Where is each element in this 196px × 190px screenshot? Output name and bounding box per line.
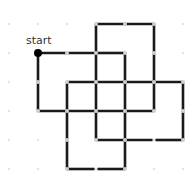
grid-dot <box>8 23 10 25</box>
grid-dot <box>8 52 10 54</box>
path-node <box>152 51 156 55</box>
grid-dot <box>8 168 10 170</box>
path-node <box>152 109 156 113</box>
grid-dot <box>37 139 39 141</box>
start-label: start <box>26 34 52 47</box>
path-node <box>152 80 156 84</box>
path-node <box>94 51 98 55</box>
path-node <box>94 138 98 142</box>
maze-path-diagram: start <box>0 0 196 190</box>
grid-dot <box>182 23 184 25</box>
path-node <box>123 51 127 55</box>
grid-dot <box>66 23 68 25</box>
path-node <box>94 80 98 84</box>
path-nodes <box>36 22 185 171</box>
grid-dot <box>8 110 10 112</box>
grid-dot <box>8 81 10 83</box>
path-svg: start <box>0 0 196 190</box>
grid-dot <box>8 139 10 141</box>
path-node <box>65 138 69 142</box>
path-node <box>123 138 127 142</box>
path-node <box>36 109 40 113</box>
path-node <box>181 138 185 142</box>
path-node <box>123 109 127 113</box>
path-node <box>181 80 185 84</box>
path-node <box>94 22 98 26</box>
path-node <box>36 80 40 84</box>
path-node <box>123 80 127 84</box>
grid-dot <box>95 168 97 170</box>
path-node <box>94 109 98 113</box>
grid-dot <box>153 168 155 170</box>
path-node <box>65 167 69 171</box>
path-node <box>65 80 69 84</box>
path-segments <box>38 24 183 169</box>
path-node <box>65 51 69 55</box>
path-node <box>65 109 69 113</box>
path-node <box>123 167 127 171</box>
path-node <box>181 109 185 113</box>
start-point <box>34 49 42 57</box>
grid-dot <box>37 23 39 25</box>
grid-dot <box>182 168 184 170</box>
grid-dot <box>182 52 184 54</box>
grid-dot <box>153 139 155 141</box>
path-node <box>123 22 127 26</box>
path-node <box>152 22 156 26</box>
grid-dot <box>37 168 39 170</box>
